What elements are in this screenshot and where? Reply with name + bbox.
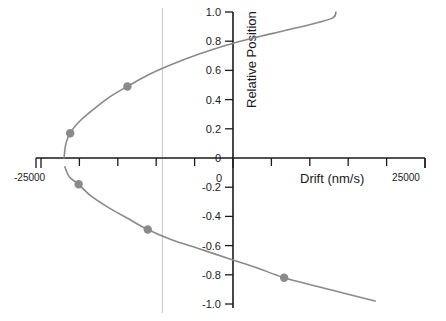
data-point-marker (74, 180, 82, 188)
x-axis-ticks (36, 158, 425, 168)
y-tick-label: -0.8 (202, 269, 221, 281)
y-tick-label: 0.2 (206, 123, 221, 135)
x-axis-title: Drift (nm/s) (300, 171, 364, 186)
data-point-marker (144, 225, 152, 233)
y-axis-title: Relative Position (244, 11, 259, 108)
y-tick-label: 0.4 (206, 94, 221, 106)
data-point-marker (280, 274, 288, 282)
y-tick-label: -0.6 (202, 240, 221, 252)
data-point-marker (66, 129, 74, 137)
y-tick-label: 0.6 (206, 64, 221, 76)
y-tick-label: -0.4 (202, 210, 221, 222)
y-tick-label: -1.0 (202, 298, 221, 310)
chart-container: -25000 0 25000 Drift (nm/s) 1.00.80.60.4… (0, 0, 446, 321)
measured-data-points (66, 82, 288, 282)
y-tick-label: 0.8 (206, 35, 221, 47)
drift-curve-upper-branch (64, 12, 336, 158)
y-tick-label: 1.0 (206, 6, 221, 18)
data-point-marker (123, 82, 131, 90)
x-tick-label-min: -25000 (14, 172, 46, 183)
y-tick-label: 0 (215, 152, 221, 164)
chart-svg: -25000 0 25000 Drift (nm/s) 1.00.80.60.4… (0, 0, 446, 321)
y-tick-label: -0.2 (202, 181, 221, 193)
x-tick-label-max: 25000 (392, 172, 420, 183)
